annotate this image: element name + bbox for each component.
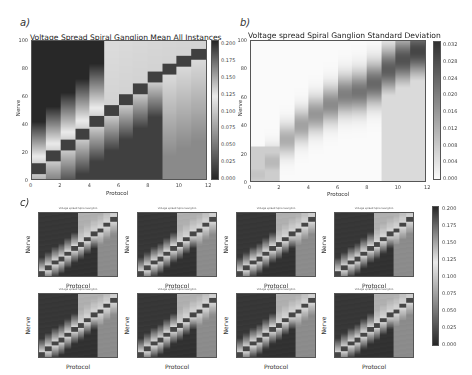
colorbar-tick: 0.175 — [442, 222, 456, 228]
panel-a-colorbar — [211, 40, 219, 180]
colorbar-tick: 0.050 — [442, 307, 456, 313]
x-tick: 2 — [277, 184, 280, 190]
colorbar-tick: 0.004 — [443, 158, 457, 164]
subplot-heatmap — [236, 293, 316, 358]
colorbar-tick: 0.000 — [442, 341, 456, 347]
colorbar-tick: 0.025 — [442, 324, 456, 330]
colorbar-tick: 0.024 — [443, 75, 457, 81]
subplot-heatmap — [38, 293, 118, 358]
colorbar-tick: 0.000 — [443, 175, 457, 181]
subplot-heatmap — [334, 212, 414, 277]
panel-b-label: b) — [240, 17, 250, 28]
subplot-heatmap — [236, 212, 316, 277]
subplot-title: Voltage spread Spiral Ganglion — [137, 207, 217, 210]
x-tick: 2 — [58, 182, 61, 188]
x-tick: 6 — [117, 182, 120, 188]
colorbar-tick: 0.100 — [442, 273, 456, 279]
colorbar-tick: 0.050 — [221, 141, 235, 147]
y-tick: 20 — [237, 151, 247, 157]
subplot-title: Voltage spread Spiral Ganglion — [38, 288, 118, 291]
x-tick: 10 — [395, 184, 401, 190]
subplot-title: Voltage spread Spiral Ganglion — [236, 207, 316, 210]
y-tick: 80 — [18, 65, 28, 71]
subplot-heatmap — [137, 212, 217, 277]
subplot-ylabel: Nerve — [320, 235, 327, 253]
panel-b-title: Voltage spread Spiral Ganglion Standard … — [248, 31, 428, 40]
x-tick: 12 — [424, 184, 430, 190]
y-tick: 20 — [18, 149, 28, 155]
colorbar-tick: 0.020 — [443, 91, 457, 97]
x-tick: 8 — [146, 182, 149, 188]
y-tick: 80 — [237, 65, 247, 71]
panel-a-heatmap — [31, 40, 207, 180]
colorbar-tick: 0.025 — [221, 158, 235, 164]
colorbar-tick: 0.075 — [221, 124, 235, 130]
panel-b-heatmap — [250, 40, 426, 182]
y-tick: 100 — [18, 37, 28, 43]
subplot-title: Voltage spread Spiral Ganglion — [38, 207, 118, 210]
y-tick: 100 — [237, 37, 247, 43]
colorbar-tick: 0.150 — [221, 74, 235, 80]
y-tick: 0 — [18, 177, 28, 183]
colorbar-tick: 0.075 — [442, 290, 456, 296]
colorbar-tick: 0.032 — [443, 41, 457, 47]
subplot-ylabel: Nerve — [24, 316, 31, 334]
colorbar-tick: 0.000 — [221, 175, 235, 181]
panel-b-colorbar — [433, 41, 441, 180]
x-tick: 12 — [205, 182, 211, 188]
panel-a-xlabel: Protocol — [106, 190, 128, 196]
y-tick: 60 — [18, 93, 28, 99]
y-tick: 0 — [237, 179, 247, 185]
y-tick: 40 — [18, 121, 28, 127]
subplot-ylabel: Nerve — [123, 235, 130, 253]
x-tick: 4 — [307, 184, 310, 190]
x-tick: 6 — [336, 184, 339, 190]
colorbar-tick: 0.125 — [442, 256, 456, 262]
subplot-title: Voltage spread Spiral Ganglion — [236, 288, 316, 291]
subplot-heatmap — [38, 212, 118, 277]
subplot-xlabel: Protocol — [362, 363, 386, 370]
x-tick: 4 — [88, 182, 91, 188]
subplot-xlabel: Protocol — [264, 363, 288, 370]
x-tick: 0 — [29, 182, 32, 188]
subplot-xlabel: Protocol — [165, 363, 189, 370]
colorbar-tick: 0.150 — [442, 239, 456, 245]
subplot-title: Voltage spread Spiral Ganglion — [334, 207, 414, 210]
colorbar-tick: 0.012 — [443, 125, 457, 131]
x-tick: 10 — [176, 182, 182, 188]
subplot-ylabel: Nerve — [123, 316, 130, 334]
colorbar-tick: 0.008 — [443, 142, 457, 148]
subplot-title: Voltage spread Spiral Ganglion — [137, 288, 217, 291]
subplot-ylabel: Nerve — [222, 316, 229, 334]
subplot-heatmap — [334, 293, 414, 358]
colorbar-tick: 0.028 — [443, 58, 457, 64]
colorbar-tick: 0.125 — [221, 91, 235, 97]
panel-c-label: c) — [20, 197, 29, 208]
panel-b-xlabel: Protocol — [327, 191, 349, 197]
panel-a-ylabel: Nerve — [15, 100, 21, 116]
subplot-heatmap — [137, 293, 217, 358]
colorbar-tick: 0.175 — [221, 57, 235, 63]
colorbar-tick: 0.100 — [221, 108, 235, 114]
panel-a-label: a) — [20, 17, 30, 28]
subplot-xlabel: Protocol — [66, 363, 90, 370]
y-tick: 40 — [237, 122, 247, 128]
panel-c-colorbar — [432, 206, 439, 346]
colorbar-tick: 0.016 — [443, 108, 457, 114]
subplot-ylabel: Nerve — [222, 235, 229, 253]
subplot-ylabel: Nerve — [24, 235, 31, 253]
subplot-ylabel: Nerve — [320, 316, 327, 334]
colorbar-tick: 0.200 — [442, 205, 456, 211]
panel-b-ylabel: Nerve — [237, 100, 243, 116]
colorbar-tick: 0.200 — [221, 40, 235, 46]
x-tick: 0 — [248, 184, 251, 190]
x-tick: 8 — [365, 184, 368, 190]
subplot-title: Voltage spread Spiral Ganglion — [334, 288, 414, 291]
